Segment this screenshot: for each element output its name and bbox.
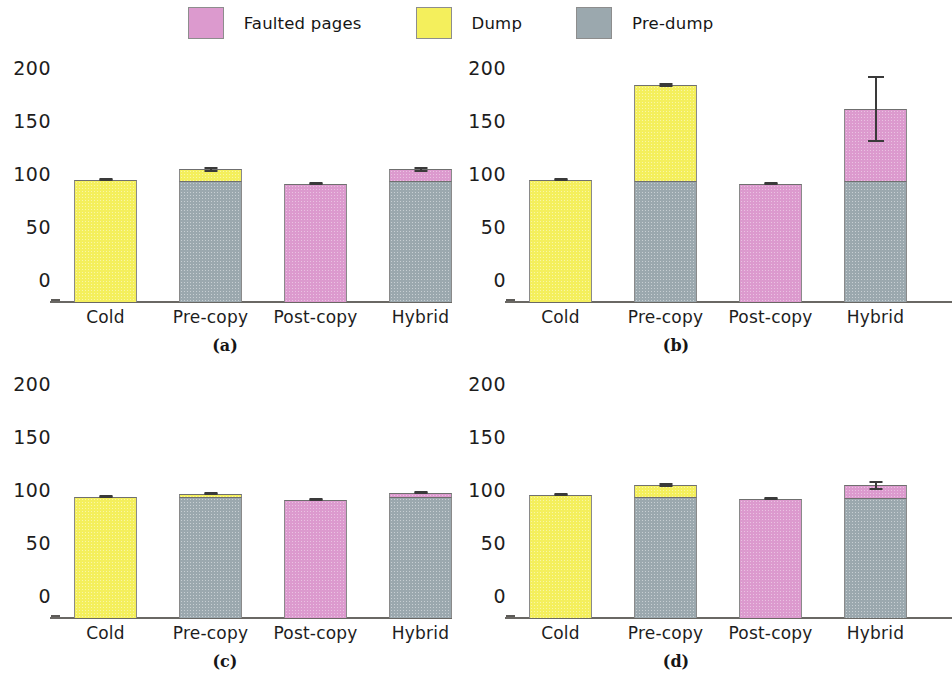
y-axis-tick-label: 0: [493, 269, 506, 291]
y-axis-tick-label: 200: [468, 57, 506, 79]
y-axis-tick-label: 50: [481, 216, 506, 238]
bar-group[interactable]: Hybrid: [844, 74, 907, 302]
y-axis-tick-label: 50: [26, 216, 51, 238]
bar-stack: [179, 74, 242, 302]
plot-area-a: 200150100500ColdPre-copyPost-copyHybrid: [60, 74, 442, 302]
bar-group[interactable]: Hybrid: [844, 390, 907, 618]
bar-group[interactable]: Post-copy: [739, 390, 802, 618]
y-axis-tick-label: 0: [38, 269, 51, 291]
plot-area-b: 200150100500ColdPre-copyPost-copyHybrid: [515, 74, 901, 302]
legend-swatch-dump: [416, 7, 452, 39]
bar-segment: [634, 85, 697, 182]
x-axis-label-hybrid: Hybrid: [392, 307, 449, 327]
bar-segment: [739, 499, 802, 618]
error-bar: [210, 492, 212, 495]
error-bar: [665, 483, 667, 486]
chart-panel-a: 200150100500ColdPre-copyPost-copyHybrid …: [0, 46, 450, 362]
bar-group[interactable]: Post-copy: [284, 74, 347, 302]
y-axis-tick-label: 200: [13, 373, 51, 395]
x-axis-label-pre-copy: Pre-copy: [173, 307, 248, 327]
x-axis-label-cold: Cold: [86, 623, 125, 643]
chart-panel-grid: 200150100500ColdPre-copyPost-copyHybrid …: [0, 46, 901, 677]
y-axis-tick-mark: [51, 615, 60, 617]
panel-caption-a: (a): [0, 336, 450, 355]
bar-segment: [179, 497, 242, 618]
bar-segment: [634, 497, 697, 618]
bar-group[interactable]: Pre-copy: [179, 390, 242, 618]
plot-area-d: 200150100500ColdPre-copyPost-copyHybrid: [515, 390, 901, 618]
y-axis-tick-label: 50: [481, 532, 506, 554]
y-axis-tick-mark: [506, 299, 515, 301]
x-axis-label-post-copy: Post-copy: [728, 623, 812, 643]
bar-group[interactable]: Pre-copy: [634, 74, 697, 302]
x-axis-label-post-copy: Post-copy: [273, 307, 357, 327]
bar-segment: [844, 498, 907, 618]
bar-segment: [74, 497, 137, 618]
bar-group[interactable]: Cold: [529, 390, 592, 618]
legend-label-pre-dump: Pre-dump: [632, 14, 713, 33]
y-axis-tick-label: 0: [38, 585, 51, 607]
x-axis-label-post-copy: Post-copy: [728, 307, 812, 327]
x-axis-label-hybrid: Hybrid: [847, 623, 904, 643]
bar-segment: [284, 184, 347, 302]
y-axis-tick-label: 100: [468, 163, 506, 185]
y-axis-tick-label: 50: [26, 532, 51, 554]
bar-group[interactable]: Hybrid: [389, 74, 452, 302]
chart-panel-b: 200150100500ColdPre-copyPost-copyHybrid …: [451, 46, 901, 362]
bar-stack: [284, 390, 347, 618]
bar-stack: [74, 390, 137, 618]
error-bar: [770, 497, 772, 500]
bar-group[interactable]: Cold: [74, 74, 137, 302]
bar-segment: [179, 181, 242, 302]
bar-stack: [389, 390, 452, 618]
y-axis-tick-label: 150: [13, 110, 51, 132]
plot-area-c: 200150100500ColdPre-copyPost-copyHybrid: [60, 390, 442, 618]
error-bar: [560, 178, 562, 181]
error-bar: [770, 182, 772, 185]
chart-legend: Faulted pages Dump Pre-dump: [0, 0, 901, 46]
chart-panel-d: 200150100500ColdPre-copyPost-copyHybrid …: [451, 362, 901, 677]
bar-segment: [74, 180, 137, 302]
bar-stack: [284, 74, 347, 302]
y-axis-tick-label: 200: [468, 373, 506, 395]
bar-segment: [389, 497, 452, 618]
panel-caption-b: (b): [451, 336, 901, 355]
error-bar: [665, 83, 667, 87]
bar-stack: [739, 74, 802, 302]
y-axis-tick-label: 200: [13, 57, 51, 79]
x-axis-label-hybrid: Hybrid: [392, 623, 449, 643]
legend-entry-faulted-pages: Faulted pages: [188, 7, 362, 39]
bar-group[interactable]: Hybrid: [389, 390, 452, 618]
x-axis-label-pre-copy: Pre-copy: [628, 623, 703, 643]
bar-segment: [634, 181, 697, 302]
bar-segment: [284, 500, 347, 618]
bar-stack: [634, 390, 697, 618]
bar-stack: [74, 74, 137, 302]
error-bar: [560, 493, 562, 496]
legend-label-dump: Dump: [472, 14, 523, 33]
bar-group[interactable]: Post-copy: [284, 390, 347, 618]
bar-segment: [529, 495, 592, 618]
bar-segment: [844, 181, 907, 302]
error-bar: [875, 76, 877, 142]
bar-group[interactable]: Cold: [529, 74, 592, 302]
x-axis-label-pre-copy: Pre-copy: [628, 307, 703, 327]
bar-group[interactable]: Cold: [74, 390, 137, 618]
bar-group[interactable]: Pre-copy: [634, 390, 697, 618]
bar-group[interactable]: Pre-copy: [179, 74, 242, 302]
chart-panel-c: 200150100500ColdPre-copyPost-copyHybrid …: [0, 362, 450, 677]
legend-entry-dump: Dump: [416, 7, 523, 39]
legend-label-faulted-pages: Faulted pages: [244, 14, 362, 33]
y-axis-tick-label: 150: [13, 426, 51, 448]
bar-stack: [529, 390, 592, 618]
y-axis-tick-mark: [51, 299, 60, 301]
bar-group[interactable]: Post-copy: [739, 74, 802, 302]
error-bar: [875, 481, 877, 489]
x-axis-label-pre-copy: Pre-copy: [173, 623, 248, 643]
error-bar: [105, 495, 107, 498]
error-bar: [210, 167, 212, 171]
x-axis-label-cold: Cold: [541, 307, 580, 327]
y-axis-tick-label: 100: [468, 479, 506, 501]
legend-swatch-faulted-pages: [188, 7, 224, 39]
x-axis-label-post-copy: Post-copy: [273, 623, 357, 643]
